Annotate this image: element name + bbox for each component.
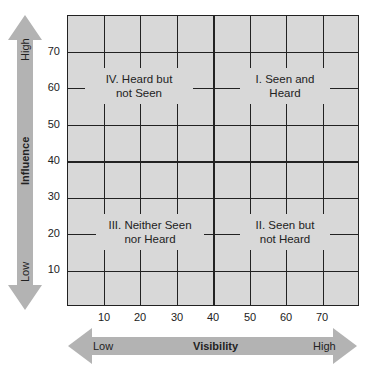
grid-hline (68, 271, 358, 272)
quadrant-grid: IV. Heard but not Seen I. Seen and Heard… (67, 15, 359, 306)
x-tick-60: 60 (271, 311, 301, 323)
quadrant-iv-line2: not Seen (87, 86, 191, 100)
grid-center-hline (68, 161, 358, 163)
grid-hline (68, 125, 358, 126)
quadrant-iv-line1: IV. Heard but (87, 72, 191, 86)
y-tick-10: 10 (30, 263, 60, 275)
grid-hline (68, 52, 358, 53)
quadrant-ii-line2: not Heard (242, 232, 328, 246)
x-tick-70: 70 (307, 311, 337, 323)
x-tick-50: 50 (235, 311, 265, 323)
grid-hline (68, 198, 358, 199)
x-tick-30: 30 (162, 311, 192, 323)
x-tick-20: 20 (125, 311, 155, 323)
y-tick-30: 30 (30, 190, 60, 202)
y-tick-70: 70 (30, 45, 60, 57)
quadrant-i-label: I. Seen and Heard (240, 68, 330, 104)
y-tick-20: 20 (30, 227, 60, 239)
quadrant-ii-line1: II. Seen but (242, 218, 328, 232)
y-tick-40: 40 (30, 154, 60, 166)
quadrant-iii-label: III. Neither Seen nor Heard (96, 214, 204, 250)
quadrant-i-line2: Heard (242, 86, 328, 100)
y-tick-50: 50 (30, 118, 60, 130)
visibility-low-label: Low (93, 340, 113, 352)
x-tick-10: 10 (89, 311, 119, 323)
quadrant-iii-line2: nor Heard (98, 232, 202, 246)
quadrant-ii-label: II. Seen but not Heard (240, 214, 330, 250)
visibility-high-label: High (313, 340, 336, 352)
y-tick-60: 60 (30, 81, 60, 93)
visibility-title: Visibility (193, 340, 239, 352)
quadrant-iii-line1: III. Neither Seen (98, 218, 202, 232)
quadrant-i-line1: I. Seen and (242, 72, 328, 86)
x-tick-40: 40 (198, 311, 228, 323)
quadrant-iv-label: IV. Heard but not Seen (85, 68, 193, 104)
